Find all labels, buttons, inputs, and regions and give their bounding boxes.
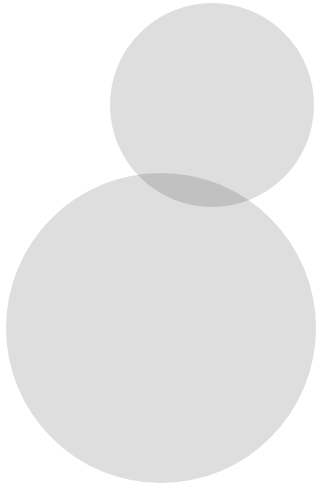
lower-circle[interactable] [6, 173, 316, 483]
overlapping-circles-figure [0, 0, 325, 504]
figure-canvas [0, 0, 325, 504]
